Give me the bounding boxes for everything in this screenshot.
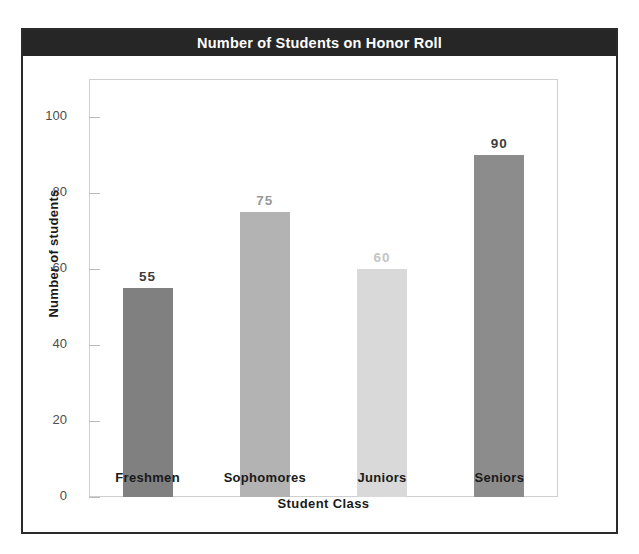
x-axis-label: Student Class [89,496,558,511]
bar-group: 60 [357,79,407,497]
bar[interactable] [474,155,524,497]
bar-group: 90 [474,79,524,497]
y-axis-tick-label: 40 [53,336,67,351]
x-axis-tick-label: Sophomores [206,470,323,485]
bar-value-label: 60 [357,250,407,265]
y-axis-tick-label: 80 [53,184,67,199]
x-axis-tick-labels: FreshmenSophomoresJuniorsSeniors [89,470,558,494]
y-axis-tick: 100 [23,117,89,118]
x-axis-tick-label: Freshmen [89,470,206,485]
y-axis-tick: 0 [23,497,89,498]
y-axis-tick-label: 60 [53,260,67,275]
bar-group: 75 [240,79,290,497]
bar-value-label: 90 [474,136,524,151]
y-axis-tick-label: 20 [53,412,67,427]
y-axis-tick: 20 [23,421,89,422]
chart-title-band: Number of Students on Honor Roll [23,30,616,56]
chart-figure-frame: Number of Students on Honor Roll 0204060… [21,28,618,534]
page-title: Number of Students on Honor Roll [197,35,442,51]
y-axis-label: Number of students [46,164,61,344]
y-axis-tick: 80 [23,193,89,194]
y-axis-tick-label: 0 [60,488,67,503]
x-axis-tick-label: Juniors [324,470,441,485]
y-axis-tick: 40 [23,345,89,346]
bar[interactable] [240,212,290,497]
y-axis-tick: 60 [23,269,89,270]
bar-group: 55 [123,79,173,497]
x-axis-tick-label: Seniors [441,470,558,485]
bar[interactable] [123,288,173,497]
bar[interactable] [357,269,407,497]
bar-value-label: 75 [240,193,290,208]
bar-value-label: 55 [123,269,173,284]
y-axis-tick-mark [89,497,100,498]
bar-series: 55756090 [89,79,558,497]
y-axis-tick-label: 100 [45,108,67,123]
